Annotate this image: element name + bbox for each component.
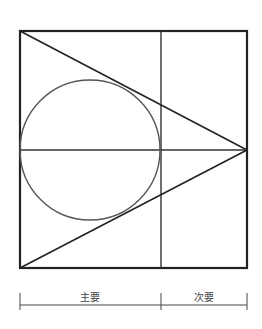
dimension-line: 主要 次要 [20,291,247,310]
label-secondary: 次要 [194,291,214,303]
label-primary: 主要 [80,292,100,303]
composition-diagram: 主要 次要 [0,0,262,329]
lower-diagonal [20,150,247,268]
